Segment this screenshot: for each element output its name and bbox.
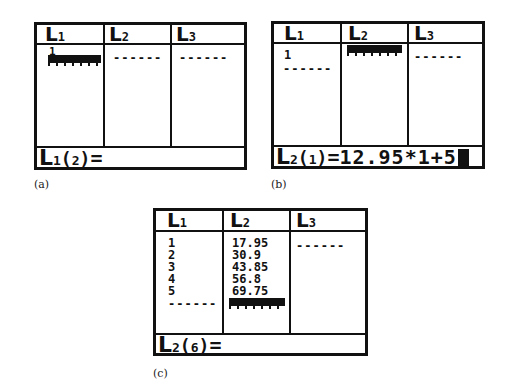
end-of-list-marker: ------ — [113, 51, 162, 65]
edit-line[interactable]: L1(2)= — [39, 145, 102, 170]
header-divider — [156, 230, 365, 232]
header-divider — [274, 42, 482, 44]
list-cell[interactable]: 69.75 — [232, 285, 268, 297]
edit-line[interactable]: L2(6)= — [158, 332, 221, 357]
column-divider — [340, 24, 342, 147]
list-cell[interactable]: 1 — [284, 49, 291, 61]
cell-cursor[interactable] — [48, 55, 101, 63]
text-cursor — [458, 149, 469, 166]
figure-caption-b: (b) — [271, 178, 287, 191]
column-header-l3[interactable]: L3 — [296, 211, 316, 232]
column-header-l2[interactable]: L2 — [109, 25, 129, 46]
calculator-list-editor-b: L1 L2 L3 1 ------ ------ L2(1)=12.95*1+5 — [271, 21, 485, 169]
column-divider — [103, 25, 105, 148]
end-of-list-marker: ------ — [283, 62, 332, 76]
cell-cursor[interactable] — [229, 298, 285, 306]
end-of-list-marker: ------ — [414, 50, 463, 64]
column-header-l2[interactable]: L2 — [230, 211, 250, 232]
column-header-l3[interactable]: L3 — [176, 25, 196, 46]
end-of-list-marker: ------ — [168, 297, 217, 311]
column-header-l1[interactable]: L1 — [45, 25, 65, 46]
header-divider — [37, 43, 244, 45]
cell-cursor[interactable] — [347, 45, 402, 53]
column-divider — [289, 211, 291, 335]
entered-expression: 12.95*1+5 — [339, 145, 456, 169]
calculator-list-editor-a: L1 L2 L3 1 ------ ------ L1(2)= — [34, 22, 247, 170]
calculator-list-editor-c: L1 L2 L3 1 2 3 4 5 ------ 17.95 30.9 43.… — [153, 208, 368, 356]
figure-caption-a: (a) — [34, 178, 49, 191]
list-cell[interactable]: 5 — [168, 285, 175, 297]
column-divider — [222, 211, 224, 335]
column-header-l1[interactable]: L1 — [284, 24, 304, 45]
column-header-l3[interactable]: L3 — [414, 24, 434, 45]
edit-line[interactable]: L2(1)=12.95*1+5 — [276, 144, 469, 169]
end-of-list-marker: ------ — [179, 51, 228, 65]
column-header-l1[interactable]: L1 — [167, 211, 187, 232]
column-divider — [170, 25, 172, 148]
figure-caption-c: (c) — [153, 367, 168, 380]
column-header-l2[interactable]: L2 — [348, 24, 368, 45]
column-divider — [407, 24, 409, 147]
end-of-list-marker: ------ — [296, 239, 345, 253]
